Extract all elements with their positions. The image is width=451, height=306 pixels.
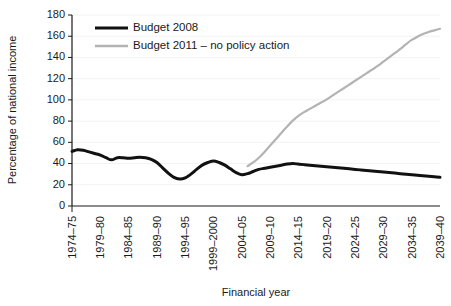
x-tick-label: 2019–20 — [321, 216, 333, 259]
y-tick-label: 140 — [47, 50, 65, 62]
y-axis-title: Percentage of national income — [6, 36, 18, 185]
y-tick-label: 0 — [59, 199, 65, 211]
y-tick-label: 60 — [53, 135, 65, 147]
y-tick-labels: 020406080100120140160180 — [47, 8, 65, 211]
y-tick-label: 100 — [47, 93, 65, 105]
y-axis — [68, 15, 72, 206]
x-tick-label: 1994–95 — [179, 216, 191, 259]
x-tick-label: 1989–90 — [151, 216, 163, 259]
x-tick-label: 1974–75 — [66, 216, 78, 259]
y-tick-label: 20 — [53, 178, 65, 190]
x-tick-label: 2029–30 — [377, 216, 389, 259]
data-series-group — [72, 29, 440, 179]
x-tick-label: 2024–25 — [349, 216, 361, 259]
x-tick-label: 1999–2000 — [207, 216, 219, 271]
series-line — [72, 150, 440, 179]
x-tick-label: 1984–85 — [122, 216, 134, 259]
x-tick-label: 2014–15 — [292, 216, 304, 259]
x-axis — [72, 206, 440, 212]
x-tick-label: 1979–80 — [94, 216, 106, 259]
line-chart: 020406080100120140160180 1974–751979–801… — [0, 0, 451, 306]
y-tick-label: 120 — [47, 72, 65, 84]
y-tick-label: 180 — [47, 8, 65, 20]
legend-label: Budget 2011 – no policy action — [133, 39, 289, 51]
legend-label: Budget 2008 — [133, 21, 198, 33]
y-tick-label: 160 — [47, 29, 65, 41]
y-tick-label: 80 — [53, 114, 65, 126]
x-tick-label: 2009–10 — [264, 216, 276, 259]
x-axis-title: Financial year — [222, 286, 291, 298]
y-tick-label: 40 — [53, 156, 65, 168]
chart-container: 020406080100120140160180 1974–751979–801… — [0, 0, 451, 306]
x-tick-labels: 1974–751979–801984–851989–901994–951999–… — [66, 216, 446, 271]
x-tick-label: 2004–05 — [236, 216, 248, 259]
x-tick-label: 2034–35 — [406, 216, 418, 259]
x-tick-label: 2039–40 — [434, 216, 446, 259]
